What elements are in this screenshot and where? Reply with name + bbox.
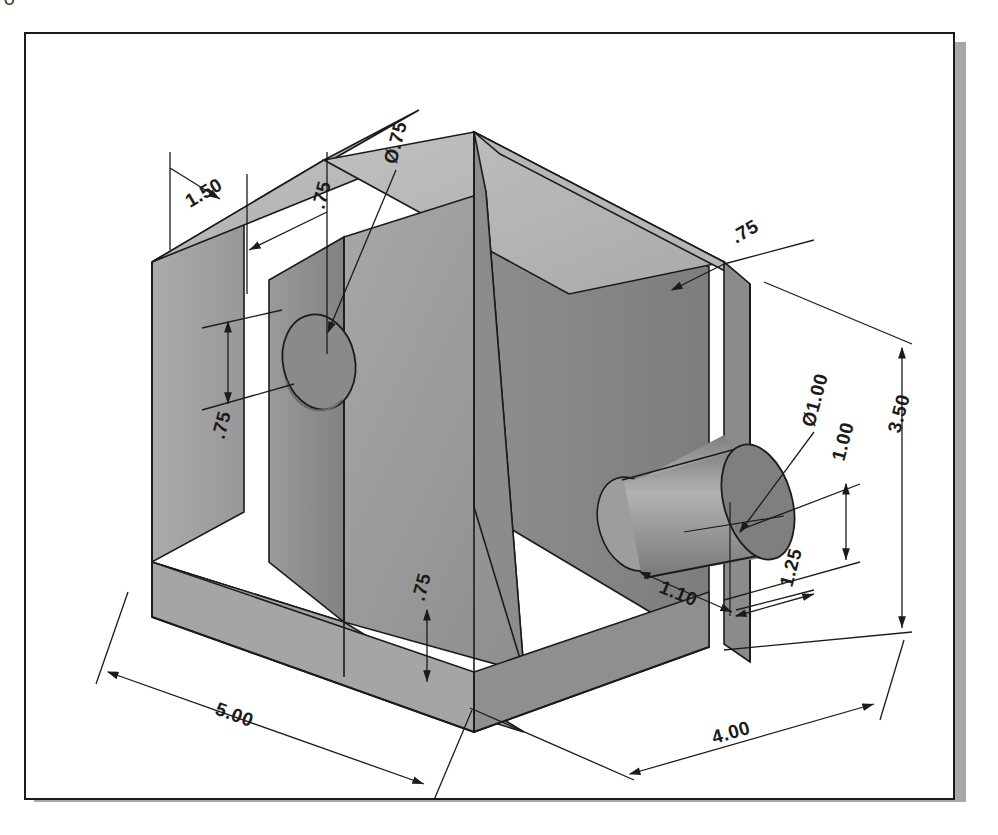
face-inner-wall: [269, 237, 344, 622]
ext-line-350-top: [764, 282, 912, 344]
dim-label-rib-width: .75: [728, 215, 763, 247]
page-corner-glyph: ∪: [2, 0, 17, 8]
solid-model: [152, 110, 807, 732]
dim-label-boss-center-height: 1.00: [828, 420, 858, 463]
ext-line-400-b: [880, 640, 904, 720]
dim-label-overall-length: 5.00: [213, 698, 257, 731]
dim-label-boss-diameter: Ø1.00: [798, 371, 832, 429]
face-left-block: [152, 210, 244, 562]
dim-label-overall-height: 3.50: [884, 392, 914, 435]
dim-line-400: [630, 704, 874, 774]
screenshot-page: ∪: [0, 0, 998, 835]
ext-line-400-a: [470, 708, 634, 780]
dim-label-overall-width: 4.00: [709, 717, 752, 748]
ext-line-350-bot: [724, 632, 912, 650]
isometric-drawing-svg: 1.50 .75 Ø.75 .75 .75: [24, 32, 955, 800]
ext-line-500-a: [96, 592, 128, 684]
isometric-drawing-canvas: 1.50 .75 Ø.75 .75 .75: [24, 32, 955, 800]
